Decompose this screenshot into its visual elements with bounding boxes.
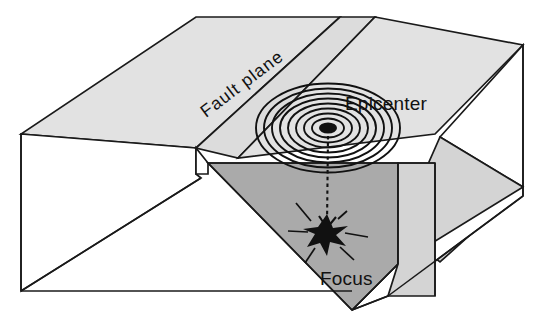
focus-label: Focus bbox=[320, 268, 373, 289]
epicenter-label: Epicenter bbox=[345, 93, 428, 114]
earthquake-block-diagram: Fault plane Epicenter Focus bbox=[0, 0, 538, 326]
epicenter-dot bbox=[319, 123, 337, 134]
left-block-notch bbox=[196, 148, 208, 174]
diagram-canvas: Fault plane Epicenter Focus bbox=[0, 0, 538, 326]
focus-ray-w bbox=[288, 231, 308, 232]
left-block-front-face bbox=[21, 134, 201, 291]
